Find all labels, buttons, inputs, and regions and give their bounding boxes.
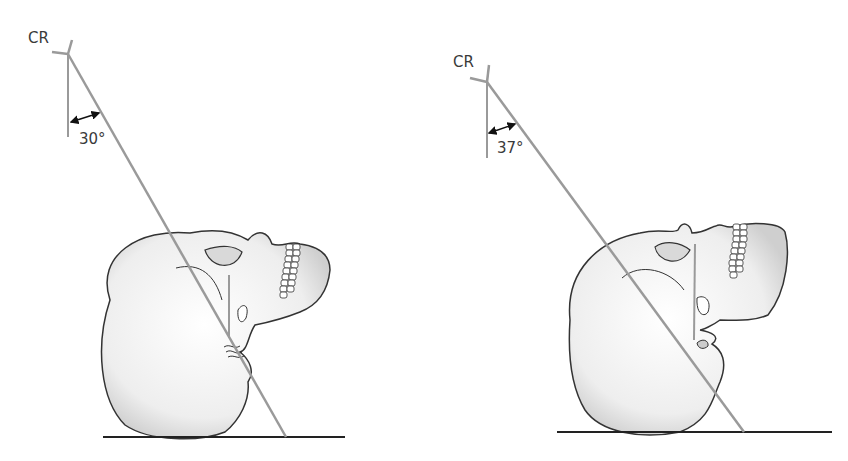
diagram-canvas: CR 30° [0,0,848,461]
angle-arrow-right [489,124,515,133]
foramen-detail-right [697,340,708,348]
cr-tick-vertical-left [68,40,72,54]
cr-label-left: CR [28,29,49,47]
figure-37-degree: CR 37° [453,53,832,435]
cr-tick-horizontal-left [52,52,68,54]
angle-label-right: 37° [497,139,524,157]
cr-tick-vertical-right [487,65,489,82]
cr-tick-horizontal-right [470,78,487,82]
figure-30-degree: CR 30° [28,29,345,439]
angle-label-left: 30° [79,130,106,148]
skull-illustration-left [102,231,330,439]
angle-arrow-left [71,113,99,122]
cr-label-right: CR [453,53,474,71]
skull-illustration-right [569,224,787,436]
reference-line-right [694,244,695,340]
